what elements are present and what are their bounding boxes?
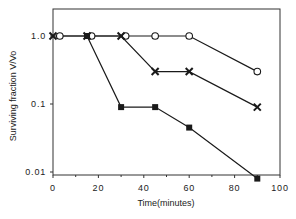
- marker-open-circle: [152, 33, 159, 40]
- x-axis-ticks: 020406080100: [50, 175, 289, 193]
- survival-chart: 020406080100 1.00.10.01 Time(minutes) Su…: [0, 0, 296, 219]
- marker-open-circle: [254, 68, 261, 75]
- y-axis-ticks: 1.00.10.01: [25, 31, 53, 177]
- x-tick-label: 20: [93, 183, 105, 193]
- series-markers: [50, 33, 261, 182]
- series-line-filled-square: [87, 36, 257, 179]
- marker-filled-square: [84, 33, 90, 39]
- y-tick-label: 0.01: [25, 167, 46, 177]
- x-tick-label: 0: [50, 183, 56, 193]
- y-tick-label: 1.0: [31, 31, 46, 41]
- marker-x: [254, 104, 261, 111]
- x-tick-label: 100: [271, 183, 288, 193]
- marker-filled-square: [118, 104, 124, 110]
- marker-filled-square: [186, 125, 192, 131]
- marker-filled-square: [254, 176, 260, 182]
- marker-open-circle: [57, 33, 64, 40]
- x-tick-label: 60: [183, 183, 195, 193]
- y-axis-title: Surviving fraction V/Vo: [8, 51, 18, 142]
- marker-open-circle: [186, 33, 193, 40]
- x-tick-label: 40: [138, 183, 150, 193]
- x-axis-title: Time(minutes): [137, 198, 194, 208]
- marker-filled-square: [152, 104, 158, 110]
- x-tick-label: 80: [229, 183, 241, 193]
- y-tick-label: 0.1: [31, 99, 46, 109]
